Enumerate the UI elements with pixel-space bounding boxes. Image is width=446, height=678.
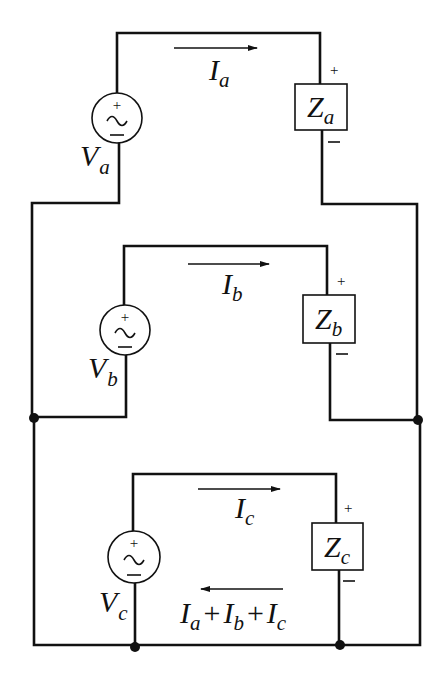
label-vc: Vc bbox=[99, 585, 128, 625]
source-plus: + bbox=[121, 309, 129, 325]
circuit-diagram: + Va Za + Ia + Vb bbox=[0, 0, 446, 678]
source-plus: + bbox=[113, 97, 121, 113]
voltage-source-a: + bbox=[92, 93, 142, 143]
label-vb: Vb bbox=[88, 351, 118, 391]
impedance-b-plus: + bbox=[337, 273, 345, 289]
junction-node-bottom-right bbox=[335, 640, 345, 650]
impedance-a-plus: + bbox=[330, 62, 338, 78]
label-ia: Ia bbox=[208, 53, 230, 92]
voltage-source-b: + bbox=[100, 305, 150, 355]
junction-node-right bbox=[413, 415, 423, 425]
label-va: Va bbox=[80, 139, 110, 179]
voltage-source-c: + bbox=[108, 531, 160, 583]
junction-node-left bbox=[29, 413, 39, 423]
impedance-c-plus: + bbox=[344, 500, 352, 516]
label-return-current: Ia+Ib+Ic bbox=[179, 596, 287, 635]
source-plus: + bbox=[130, 535, 138, 551]
label-ic: Ic bbox=[234, 491, 255, 530]
label-ib: Ib bbox=[221, 267, 243, 306]
branch-b: + Vb Zb + Ib bbox=[34, 246, 418, 420]
junction-node-bottom-left bbox=[130, 642, 140, 652]
